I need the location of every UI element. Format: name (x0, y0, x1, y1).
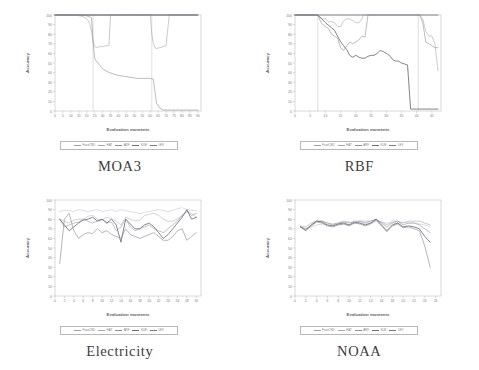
svg-text:90: 90 (288, 208, 292, 212)
legend-swatch-icon (98, 145, 105, 146)
chart-area: 0102030405060708090100024681012141618202… (262, 193, 447, 318)
chart-area: 0102030405060708090100024681012141618202… (22, 193, 207, 318)
legend-item: HAT (98, 329, 112, 332)
svg-text:25: 25 (93, 114, 97, 118)
svg-text:100: 100 (286, 199, 292, 203)
svg-text:10: 10 (347, 299, 351, 303)
svg-text:100: 100 (286, 14, 292, 18)
svg-text:30: 30 (288, 266, 292, 270)
svg-text:4: 4 (73, 299, 75, 303)
svg-text:10: 10 (48, 100, 52, 104)
legend-item: FuzzCND (74, 329, 95, 332)
figure-caption: MOA3 (0, 158, 240, 175)
legend-item: HAT (338, 329, 352, 332)
figure-caption: Electricity (0, 343, 240, 360)
svg-text:90: 90 (48, 208, 52, 212)
svg-text:80: 80 (48, 33, 52, 37)
svg-text:18: 18 (390, 299, 394, 303)
figure-panel: 0102030405060708090100051015202530354045… (0, 0, 240, 185)
svg-text:50: 50 (48, 62, 52, 66)
svg-text:2: 2 (304, 299, 306, 303)
legend-label: FuzzCND (322, 144, 335, 147)
svg-text:8: 8 (92, 299, 94, 303)
legend-item: LEV (389, 144, 403, 147)
svg-text:60: 60 (48, 52, 52, 56)
legend-label: LEV (158, 329, 163, 332)
svg-text:12: 12 (357, 299, 361, 303)
legend-label: FuzzCND (322, 329, 335, 332)
svg-text:80: 80 (288, 33, 292, 37)
legend-item: FuzzCND (314, 144, 335, 147)
legend-item: FuzzCND (314, 329, 335, 332)
legend-label: LEV (398, 144, 403, 147)
svg-text:50: 50 (48, 247, 52, 251)
legend-swatch-icon (355, 145, 362, 146)
chart-plot: 0102030405060708090100024681012141618202… (262, 193, 447, 318)
x-axis-label: Evaluation moments (107, 312, 150, 317)
svg-text:30: 30 (101, 114, 105, 118)
svg-text:14: 14 (368, 299, 372, 303)
legend-swatch-icon (314, 330, 321, 331)
svg-text:0: 0 (294, 299, 296, 303)
svg-text:4: 4 (315, 299, 317, 303)
svg-text:100: 100 (46, 14, 52, 18)
svg-text:35: 35 (399, 114, 403, 118)
svg-text:55: 55 (140, 114, 144, 118)
legend-swatch-icon (355, 330, 362, 331)
legend-swatch-icon (150, 145, 157, 146)
legend-label: HAT (107, 144, 113, 147)
svg-text:40: 40 (288, 256, 292, 260)
svg-text:10: 10 (288, 285, 292, 289)
svg-text:40: 40 (414, 114, 418, 118)
svg-text:30: 30 (384, 114, 388, 118)
legend-label: HAT (346, 144, 352, 147)
legend-label: HAT (346, 329, 352, 332)
legend-label: ARF (124, 329, 130, 332)
svg-text:0: 0 (50, 295, 52, 299)
svg-text:10: 10 (69, 114, 73, 118)
svg-text:6: 6 (326, 299, 328, 303)
svg-text:16: 16 (379, 299, 383, 303)
legend-swatch-icon (372, 330, 379, 332)
svg-text:60: 60 (288, 52, 292, 56)
svg-text:20: 20 (288, 275, 292, 279)
legend-item: ARF (115, 329, 129, 332)
svg-text:70: 70 (164, 114, 168, 118)
svg-text:80: 80 (288, 218, 292, 222)
svg-text:26: 26 (176, 299, 180, 303)
chart-area: 0102030405060708090100051015202530354045… (262, 8, 447, 133)
chart-legend: FuzzCNDHATARFKUELEV (60, 141, 178, 150)
legend-swatch-icon (372, 145, 379, 147)
svg-text:5: 5 (62, 114, 64, 118)
svg-text:10: 10 (323, 114, 327, 118)
svg-text:35: 35 (109, 114, 113, 118)
svg-text:70: 70 (288, 227, 292, 231)
legend-item: HAT (98, 144, 112, 147)
chart-plot: 0102030405060708090100051015202530354045… (262, 8, 447, 133)
legend-item: KUE (132, 329, 146, 332)
legend-item: HAT (338, 144, 352, 147)
svg-text:26: 26 (433, 299, 437, 303)
figure-caption: RBF (240, 158, 479, 175)
legend-swatch-icon (338, 330, 345, 331)
figure-panel: 0102030405060708090100024681012141618202… (240, 185, 479, 370)
svg-text:60: 60 (288, 237, 292, 241)
svg-text:50: 50 (288, 62, 292, 66)
svg-text:70: 70 (48, 42, 52, 46)
svg-text:25: 25 (369, 114, 373, 118)
legend-swatch-icon (132, 330, 139, 332)
svg-text:0: 0 (289, 110, 291, 114)
svg-text:20: 20 (401, 299, 405, 303)
legend-label: LEV (158, 144, 163, 147)
svg-text:12: 12 (110, 299, 114, 303)
svg-text:20: 20 (48, 90, 52, 94)
svg-text:28: 28 (185, 299, 189, 303)
svg-text:15: 15 (338, 114, 342, 118)
svg-text:20: 20 (48, 275, 52, 279)
chart-legend: FuzzCNDHATARFKUELEV (300, 326, 418, 335)
svg-text:90: 90 (288, 23, 292, 27)
svg-text:0: 0 (54, 299, 56, 303)
svg-text:10: 10 (100, 299, 104, 303)
legend-label: ARF (124, 144, 130, 147)
svg-text:45: 45 (125, 114, 129, 118)
